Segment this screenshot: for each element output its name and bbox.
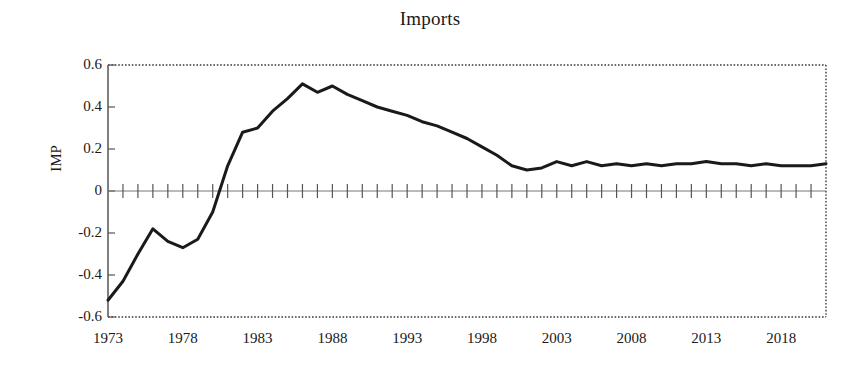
chart-figure: Imports IMP 0.60.40.20-0.2-0.4-0.6 19731… [0, 0, 860, 371]
plot-area [0, 0, 860, 371]
